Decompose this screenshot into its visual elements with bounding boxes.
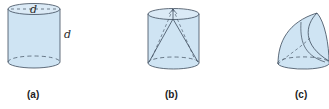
caption-a: (a) (27, 89, 39, 100)
figure-c-solid (278, 13, 329, 69)
caption-c: (c) (295, 89, 307, 100)
caption-b: (b) (165, 89, 178, 100)
figure-a-cylinder: d d (8, 3, 71, 68)
height-label: d (64, 28, 71, 41)
figure-b-cylinder (148, 9, 199, 70)
geometry-figure: d d (a) (b) (c) (0, 0, 329, 109)
diameter-label: d (30, 3, 37, 16)
